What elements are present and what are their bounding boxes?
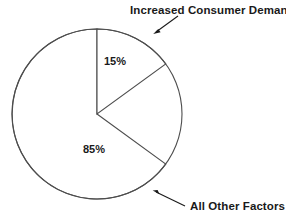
slice-value-all-other-factors: 85% [83,144,105,155]
callout-arrow-increased-consumer-demand [153,16,178,34]
callout-label-increased-consumer-demand: Increased Consumer Demand [130,5,286,17]
slice-value-increased-consumer-demand: 15% [104,56,126,67]
callout-arrow-all-other-factors [153,190,185,206]
pie-chart-graphic [0,0,286,219]
pie-chart-figure: Increased Consumer Demand All Other Fact… [0,0,286,219]
callout-label-all-other-factors: All Other Factors [190,201,285,213]
pie-slice-increased-consumer-demand [97,29,166,114]
